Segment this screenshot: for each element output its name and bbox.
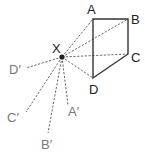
ray-x-d	[62, 57, 93, 78]
label-d-prime: D′	[9, 62, 21, 77]
label-b-prime: B′	[41, 137, 53, 152]
label-c: C	[131, 50, 140, 65]
enlargement-diagram: X A B C D D′ C′ B′ A′	[0, 0, 145, 158]
label-a-prime: A′	[68, 104, 80, 119]
ray-x-d-prime	[26, 57, 62, 68]
ray-x-b	[62, 19, 128, 57]
ray-x-a	[62, 19, 93, 57]
ray-x-c	[62, 54, 128, 57]
shape-abcd	[93, 19, 128, 78]
label-d: D	[89, 82, 98, 97]
label-a: A	[87, 2, 96, 17]
label-b: B	[131, 12, 140, 27]
label-c-prime: C′	[7, 110, 19, 125]
label-x: X	[52, 41, 61, 56]
ray-x-a-prime	[62, 57, 68, 105]
